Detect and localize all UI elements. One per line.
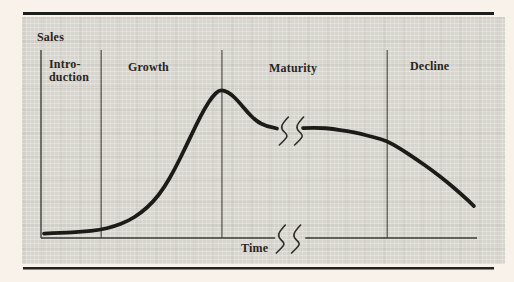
figure-page: Sales Intro- duction Growth Maturity Dec… [0,0,514,282]
x-axis-label: Time [241,241,268,256]
phase-label-introduction: Intro- duction [49,58,89,84]
sales-curve-segment-2 [303,128,474,206]
axis-break-mark-1 [276,225,285,253]
phase-label-introduction-line2: duction [49,71,89,84]
y-axis-label: Sales [37,30,64,45]
product-lifecycle-curve-chart [0,0,514,282]
bottom-rule [23,267,494,269]
phase-label-maturity: Maturity [269,61,317,76]
phase-label-growth: Growth [128,60,169,75]
phase-label-decline: Decline [410,59,449,74]
curve-break-mark-1 [279,117,288,145]
sales-curve-segment-1 [44,90,277,233]
axis-break-mark-2 [292,225,301,253]
curve-break-mark-2 [295,117,304,145]
